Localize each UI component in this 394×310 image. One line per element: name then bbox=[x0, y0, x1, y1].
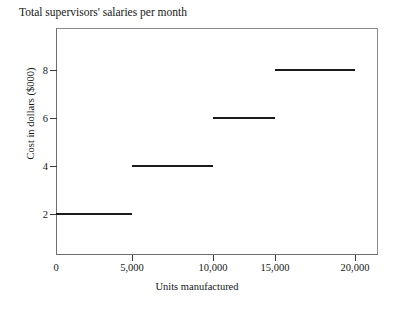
chart-figure: Total supervisors' salaries per month 2 … bbox=[0, 0, 394, 310]
x-tick-mark-5000 bbox=[132, 255, 133, 261]
step-segment-10000-15000 bbox=[213, 117, 275, 119]
x-tick-label-20000: 20,000 bbox=[325, 262, 385, 273]
step-segment-15000-20000 bbox=[275, 69, 355, 71]
step-segment-0-5000 bbox=[56, 213, 132, 215]
x-axis-label: Units manufactured bbox=[0, 281, 394, 293]
x-tick-label-15000: 15,000 bbox=[245, 262, 305, 273]
x-tick-mark-10000 bbox=[213, 255, 214, 261]
x-tick-mark-15000 bbox=[275, 255, 276, 261]
plot-data-area bbox=[56, 28, 378, 255]
chart-title: Total supervisors' salaries per month bbox=[19, 6, 187, 19]
y-axis-label: Cost in dollars ($000) bbox=[25, 34, 36, 194]
step-segment-5000-10000 bbox=[132, 165, 213, 167]
x-tick-label-0: 0 bbox=[26, 262, 86, 273]
y-tick-label-2: 2 bbox=[22, 209, 48, 220]
x-tick-mark-20000 bbox=[355, 255, 356, 261]
x-tick-label-10000: 10,000 bbox=[183, 262, 243, 273]
x-tick-label-5000: 5,000 bbox=[102, 262, 162, 273]
